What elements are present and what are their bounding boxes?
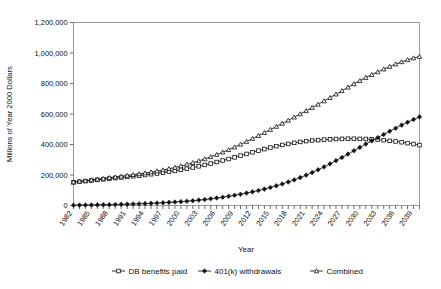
x-axis-tick-label: 2033 (362, 209, 379, 228)
data-point-marker (358, 137, 362, 141)
data-point-marker (316, 138, 320, 142)
data-point-marker (340, 155, 344, 160)
x-axis-tick-label: 2009 (218, 209, 235, 228)
x-axis-tick-label: 2012 (236, 209, 253, 228)
data-point-marker (197, 159, 201, 163)
data-point-marker (149, 201, 153, 206)
data-point-marker (405, 58, 409, 62)
data-point-marker (310, 139, 314, 143)
data-point-marker (286, 118, 290, 122)
x-axis-tick-label: 1982 (57, 209, 74, 228)
data-point-marker (203, 163, 207, 167)
data-point-marker (298, 112, 302, 116)
data-point-marker (107, 176, 111, 180)
x-axis-tick-label: 1991 (111, 209, 128, 228)
data-point-marker (406, 141, 410, 145)
data-point-marker (215, 196, 219, 201)
data-point-marker (179, 164, 183, 168)
legend-marker-3 (314, 269, 318, 273)
data-point-marker (310, 170, 314, 175)
data-point-marker (400, 123, 404, 128)
data-point-marker (328, 138, 332, 142)
data-point-marker (161, 200, 165, 205)
data-point-marker (417, 115, 421, 120)
data-point-marker (393, 62, 397, 66)
data-point-marker (292, 141, 296, 145)
y-axis-tick-label: 1,000,000 (35, 49, 68, 58)
data-point-marker (328, 162, 332, 167)
data-point-marker (298, 140, 302, 144)
data-point-marker (221, 159, 225, 163)
data-point-marker (364, 75, 368, 79)
data-point-marker (334, 137, 338, 141)
data-point-marker (370, 72, 374, 76)
data-point-marker (71, 203, 75, 208)
data-point-marker (387, 64, 391, 68)
data-point-marker (83, 203, 87, 208)
data-point-marker (89, 203, 93, 208)
data-point-marker (274, 184, 278, 189)
data-point-marker (149, 170, 153, 174)
data-point-marker (418, 143, 422, 147)
data-point-marker (256, 133, 260, 137)
data-point-marker (340, 137, 344, 141)
data-point-marker (245, 152, 249, 156)
data-point-marker (101, 202, 105, 207)
data-point-marker (220, 150, 224, 154)
data-point-marker (280, 143, 284, 147)
x-axis-tick-label: 1985 (75, 209, 92, 228)
data-point-marker (388, 139, 392, 143)
data-point-marker (155, 169, 159, 173)
data-point-marker (376, 70, 380, 74)
data-point-marker (269, 146, 273, 150)
data-point-marker (173, 165, 177, 169)
x-axis-tick-label: 1997 (147, 209, 164, 228)
data-point-marker (358, 145, 362, 150)
data-point-marker (250, 190, 254, 195)
data-point-marker (304, 109, 308, 113)
legend-label-1: DB benefits paid (129, 267, 188, 276)
data-point-marker (143, 171, 147, 175)
data-point-marker (227, 194, 231, 199)
data-point-marker (215, 160, 219, 164)
x-axis-tick-label: 2006 (201, 209, 218, 228)
x-axis-tick-label: 1988 (93, 209, 110, 228)
data-point-marker (191, 198, 195, 203)
series-2 (71, 115, 421, 208)
data-point-marker (185, 162, 189, 166)
series-line (74, 57, 420, 183)
data-point-marker (179, 199, 183, 204)
x-axis-tick-label: 2027 (326, 209, 343, 228)
data-point-marker (113, 202, 117, 207)
data-point-marker (209, 162, 213, 166)
data-point-marker (173, 200, 177, 205)
data-point-marker (155, 201, 159, 206)
data-point-marker (400, 140, 404, 144)
data-point-marker (257, 149, 261, 153)
data-point-marker (364, 137, 368, 141)
series-3 (71, 54, 421, 184)
data-point-marker (268, 127, 272, 131)
data-point-marker (316, 102, 320, 106)
data-point-marker (214, 152, 218, 156)
y-axis-tick-label: 1,200,000 (35, 18, 68, 27)
data-point-marker (286, 180, 290, 185)
chart-legend: DB benefits paid401(k) withdrawalsCombin… (112, 267, 363, 276)
data-point-marker (364, 142, 368, 147)
y-axis-tick-label: 0 (63, 201, 67, 210)
y-axis-tick-label: 200,000 (41, 171, 68, 180)
data-point-marker (107, 202, 111, 207)
data-point-marker (352, 82, 356, 86)
x-axis-title: Year (238, 245, 255, 254)
data-point-marker (417, 54, 421, 58)
data-point-marker (77, 203, 81, 208)
data-point-marker (233, 156, 237, 160)
x-axis-tick-label: 1994 (129, 209, 146, 228)
y-axis-tick-label: 600,000 (41, 110, 68, 119)
data-point-marker (232, 193, 236, 198)
data-point-marker (263, 147, 267, 151)
data-point-marker (244, 139, 248, 143)
data-point-marker (280, 121, 284, 125)
data-point-marker (334, 158, 338, 163)
data-point-marker (137, 172, 141, 176)
